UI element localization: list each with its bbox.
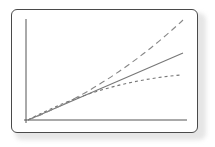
series-upper-long-dashed — [28, 20, 183, 120]
series-lower-short-dashed — [28, 75, 181, 120]
diagram-plot — [0, 0, 215, 147]
